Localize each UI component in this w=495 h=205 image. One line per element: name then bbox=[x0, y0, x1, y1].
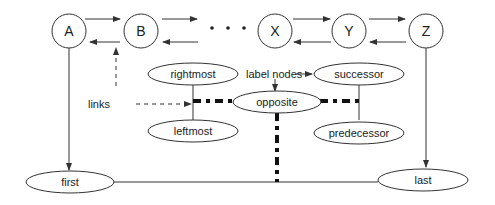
svg-text:X: X bbox=[270, 23, 280, 39]
svg-text:first: first bbox=[61, 176, 79, 188]
svg-text:opposite: opposite bbox=[256, 96, 298, 108]
svg-text:Z: Z bbox=[422, 23, 431, 39]
svg-text:successor: successor bbox=[334, 68, 384, 80]
svg-text:rightmost: rightmost bbox=[170, 68, 215, 80]
node-z: Z bbox=[409, 14, 443, 48]
svg-text:Y: Y bbox=[344, 23, 354, 39]
links-annotation: links bbox=[88, 98, 111, 110]
ellipsis-dot bbox=[210, 26, 214, 30]
predecessor-node: predecessor bbox=[314, 122, 404, 144]
ellipsis-dot bbox=[226, 26, 230, 30]
svg-text:last: last bbox=[414, 174, 431, 186]
ellipsis-dot bbox=[242, 26, 246, 30]
opposite-node: opposite bbox=[233, 91, 321, 113]
node-x: X bbox=[258, 14, 292, 48]
linked-structure-diagram: A B X Y Z rightmost leftmost bbox=[0, 0, 495, 205]
rightmost-node: rightmost bbox=[148, 63, 238, 85]
node-y: Y bbox=[332, 14, 366, 48]
svg-text:B: B bbox=[136, 23, 145, 39]
label-nodes-annotation: label nodes bbox=[246, 68, 303, 80]
svg-text:predecessor: predecessor bbox=[329, 127, 390, 139]
successor-node: successor bbox=[314, 63, 404, 85]
leftmost-node: leftmost bbox=[148, 120, 238, 142]
svg-text:leftmost: leftmost bbox=[174, 125, 213, 137]
node-a: A bbox=[52, 14, 86, 48]
last-node: last bbox=[378, 169, 468, 191]
svg-text:A: A bbox=[64, 23, 74, 39]
node-b: B bbox=[124, 14, 158, 48]
first-node: first bbox=[26, 171, 114, 193]
